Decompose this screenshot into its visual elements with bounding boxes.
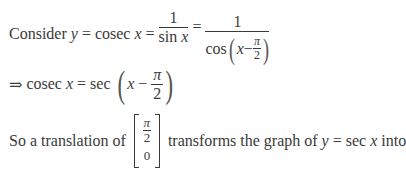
lead-text: So a translation of xyxy=(9,132,126,150)
left-paren: ( xyxy=(117,62,125,106)
denominator: cos(x−π2) xyxy=(205,32,270,66)
var-x: x xyxy=(370,132,377,150)
sec-fn: sec xyxy=(346,132,366,150)
cosec-fn: cosec xyxy=(95,25,131,43)
equals: = xyxy=(146,25,155,43)
fraction-1-over-sin-x: 1 sin x xyxy=(159,9,189,46)
minus: − xyxy=(138,75,147,93)
equals: = xyxy=(82,25,91,43)
numerator: 1 xyxy=(205,13,269,32)
var-x: x xyxy=(134,25,141,43)
implies-arrow: ⇒ xyxy=(9,75,22,94)
var-y: y xyxy=(322,132,329,150)
equals: = xyxy=(77,75,86,93)
var-x: x xyxy=(66,75,73,93)
numerator: 1 xyxy=(159,9,189,28)
sec-fn: sec xyxy=(90,75,110,93)
equation-line-2: ⇒ cosec x = sec (x − π2) xyxy=(9,64,176,104)
fraction-pi-over-2: π2 xyxy=(151,66,163,103)
equation-line-1: Consider y = cosec x = 1 sin x = 1 cos(x… xyxy=(9,8,271,60)
var-y: y xyxy=(71,25,78,43)
fraction-1-over-cos: 1 cos(x−π2) xyxy=(205,13,270,66)
equals: = xyxy=(192,18,201,36)
cropped-heading-remnant xyxy=(38,0,98,1)
cosec-fn: cosec xyxy=(26,75,62,93)
var-x: x xyxy=(127,75,134,93)
tail-text: into xyxy=(381,132,406,150)
right-paren: ) xyxy=(166,62,174,106)
translation-vector: π 2 0 xyxy=(134,114,160,168)
equals: = xyxy=(333,132,342,150)
mid-text: transforms the graph of xyxy=(168,132,318,150)
denominator: sin x xyxy=(159,28,189,46)
equation-line-3: So a translation of π 2 0 transforms the… xyxy=(9,115,406,167)
consider-text: Consider xyxy=(9,25,67,43)
